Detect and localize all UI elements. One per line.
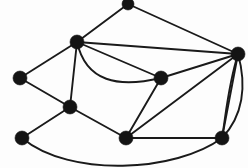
graph-edge	[126, 78, 161, 138]
graph-edge	[70, 107, 126, 138]
graph-node	[122, 0, 134, 10]
graph-node	[13, 71, 27, 85]
graph-node	[231, 47, 245, 61]
graph-edge	[161, 54, 238, 78]
graph-node	[154, 71, 168, 85]
graph-edge	[126, 54, 238, 138]
graph-node	[15, 131, 29, 145]
graph-canvas	[0, 0, 248, 168]
graph-figure	[0, 0, 248, 168]
graph-node	[63, 100, 77, 114]
graph-node	[119, 131, 133, 145]
graph-node	[215, 131, 229, 145]
graph-node	[70, 35, 84, 49]
graph-edge	[20, 78, 70, 107]
graph-edge	[20, 42, 77, 78]
graph-edge	[22, 107, 70, 138]
node-layer	[13, 0, 245, 145]
graph-edge	[70, 42, 77, 107]
graph-edge	[77, 4, 128, 42]
